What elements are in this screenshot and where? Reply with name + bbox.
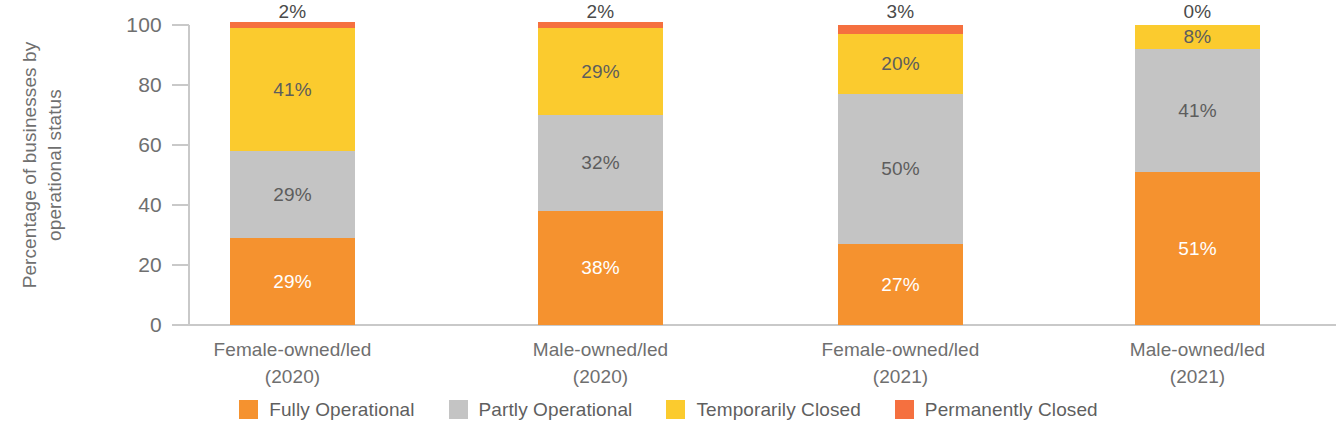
bar-segment-label: 41% [1135,101,1260,120]
y-axis-tick-label-100: 100 [82,14,162,35]
y-axis-tick-label-60: 60 [82,134,162,155]
x-axis-category-label: Male-owned/led(2020) [461,336,741,390]
legend-label: Permanently Closed [925,400,1098,419]
bar-segment[interactable] [538,22,663,28]
bar-segment-label-above: 2% [230,2,355,21]
y-axis-tick-100 [172,24,189,26]
legend-item[interactable]: Temporarily Closed [666,400,860,419]
y-axis-title: Percentage of businesses by operational … [17,5,67,325]
legend-item[interactable]: Partly Operational [449,400,633,419]
x-axis-category-label: Female-owned/led(2020) [153,336,433,390]
bar-segment-label: 29% [538,62,663,81]
y-axis-tick-40 [172,204,189,206]
y-axis-tick-0 [172,324,189,326]
category-year: (2020) [153,363,433,390]
legend-swatch-icon [449,400,468,419]
category-name: Male-owned/led [1058,336,1337,363]
bar-segment-label: 8% [1135,27,1260,46]
legend-label: Partly Operational [479,400,633,419]
bar-column[interactable]: 51%41%8%0% [1135,25,1260,325]
bar-segment[interactable] [230,22,355,28]
y-axis-tick-80 [172,84,189,86]
bar-segment-label: 29% [230,272,355,291]
category-name: Female-owned/led [153,336,433,363]
y-axis-tick-20 [172,264,189,266]
bar-column[interactable]: 27%50%20%3% [838,25,963,325]
chart-legend: Fully OperationalPartly OperationalTempo… [0,400,1337,419]
bar-segment-label: 38% [538,258,663,277]
y-axis-tick-label-20: 20 [82,254,162,275]
bar-column[interactable]: 38%32%29%2% [538,25,663,325]
bar-segment-label-above: 0% [1135,2,1260,21]
legend-item[interactable]: Fully Operational [239,400,414,419]
y-axis-tick-60 [172,144,189,146]
bar-segment[interactable] [838,25,963,34]
y-axis-title-line-2: operational status [42,5,67,325]
y-axis-tick-label-40: 40 [82,194,162,215]
y-axis-tick-label-0: 0 [82,314,162,335]
category-year: (2021) [761,363,1041,390]
bar-segment-label: 20% [838,54,963,73]
stacked-bar-chart: Percentage of businesses by operational … [0,0,1337,436]
legend-swatch-icon [895,400,914,419]
legend-swatch-icon [239,400,258,419]
bar-segment-label: 29% [230,185,355,204]
category-name: Female-owned/led [761,336,1041,363]
x-axis-category-label: Male-owned/led(2021) [1058,336,1337,390]
legend-label: Fully Operational [269,400,414,419]
bar-segment-label: 50% [838,159,963,178]
bar-segment-label-above: 2% [538,2,663,21]
bar-segment-label: 41% [230,80,355,99]
legend-swatch-icon [666,400,685,419]
y-axis-line [188,25,190,325]
y-axis-title-line-1: Percentage of businesses by [17,5,42,325]
bar-segment-label: 27% [838,275,963,294]
legend-item[interactable]: Permanently Closed [895,400,1098,419]
category-year: (2021) [1058,363,1337,390]
bar-segment-label-above: 3% [838,2,963,21]
bar-segment-label: 32% [538,153,663,172]
y-axis-tick-label-80: 80 [82,74,162,95]
legend-label: Temporarily Closed [696,400,860,419]
bar-column[interactable]: 29%29%41%2% [230,25,355,325]
category-name: Male-owned/led [461,336,741,363]
bar-segment-label: 51% [1135,239,1260,258]
x-axis-category-label: Female-owned/led(2021) [761,336,1041,390]
category-year: (2020) [461,363,741,390]
